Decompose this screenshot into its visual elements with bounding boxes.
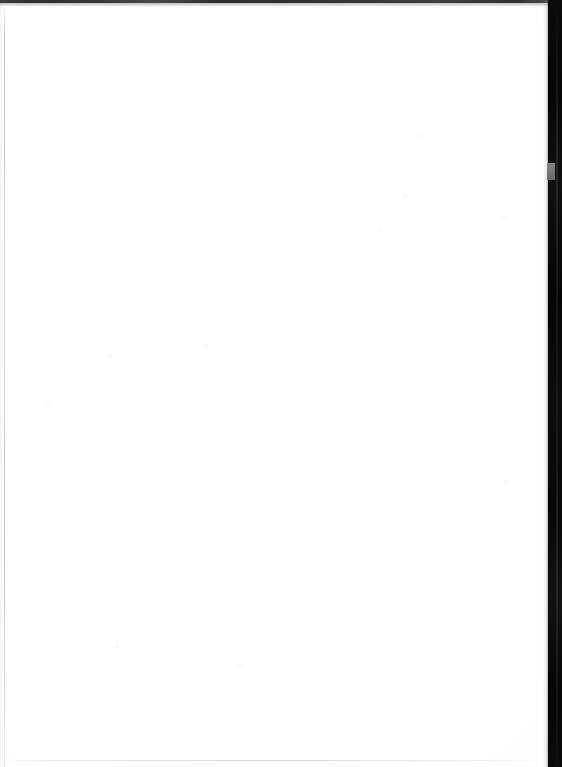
scan-speck [418, 135, 420, 137]
top-edge-strip [0, 0, 549, 3]
band-seam [556, 0, 558, 767]
scan-speck [380, 229, 382, 231]
scanned-page: Blank white scanned page with dark scann… [0, 0, 562, 767]
scan-speck [404, 195, 406, 197]
scan-speck [47, 404, 49, 406]
scanner-edge-band [548, 0, 562, 767]
paper-surface [0, 0, 549, 767]
scan-speck [505, 480, 507, 482]
bottom-edge-rule [0, 760, 549, 761]
scan-speck [116, 646, 118, 648]
scan-speck [503, 216, 505, 218]
scan-speck [205, 344, 207, 346]
left-margin-rule [4, 4, 5, 767]
top-edge-fade [0, 3, 549, 7]
band-gray-notch [547, 163, 555, 180]
scan-speck [110, 355, 112, 357]
scan-speck [239, 664, 241, 666]
